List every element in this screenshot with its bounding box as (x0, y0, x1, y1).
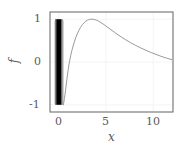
ytick-label-0: 0 (34, 56, 41, 67)
oscillation-band (55, 19, 64, 105)
chart-figure: 1 0 -1 0 5 10 f x (0, 0, 183, 150)
xtick-label-5: 5 (102, 116, 109, 127)
ytick-label-neg1: -1 (29, 99, 40, 110)
xtick-label-10: 10 (146, 116, 160, 127)
x-axis-title: x (108, 131, 115, 143)
ytick-label-1: 1 (34, 13, 41, 24)
xtick-label-0: 0 (55, 116, 62, 127)
y-axis-title: f (8, 59, 20, 63)
